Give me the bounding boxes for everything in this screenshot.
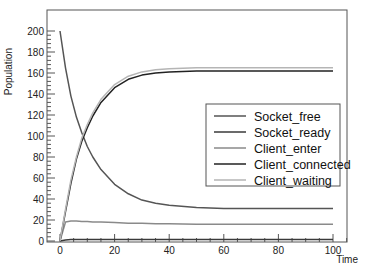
y-tick-label: 160 [27, 68, 44, 79]
y-axis-title: Population [3, 48, 14, 95]
x-tick-label: 60 [218, 245, 230, 256]
y-tick-label: 140 [27, 89, 44, 100]
y-tick-label: 180 [27, 47, 44, 58]
x-tick-label: 20 [109, 245, 121, 256]
y-tick-label: 120 [27, 110, 44, 121]
x-tick-label: 40 [164, 245, 176, 256]
y-tick-label: 60 [33, 173, 45, 184]
legend-label: Socket_free [254, 110, 321, 124]
legend-label: Client_connected [254, 158, 351, 172]
y-tick-label: 100 [27, 131, 44, 142]
y-tick-label: 0 [38, 236, 44, 247]
x-tick-label: 0 [57, 245, 63, 256]
line-chart: 020406080100120140160180200020406080100 … [0, 0, 385, 276]
y-tick-label: 40 [33, 194, 45, 205]
legend-label: Client_waiting [254, 174, 332, 188]
legend-label: Client_enter [254, 142, 321, 156]
y-tick-label: 80 [33, 152, 45, 163]
y-tick-label: 20 [33, 215, 45, 226]
y-tick-label: 200 [27, 26, 44, 37]
legend-label: Socket_ready [254, 126, 331, 140]
x-axis-title: Time [336, 254, 358, 265]
legend: Socket_freeSocket_readyClient_enterClien… [206, 104, 351, 188]
x-tick-label: 80 [273, 245, 285, 256]
